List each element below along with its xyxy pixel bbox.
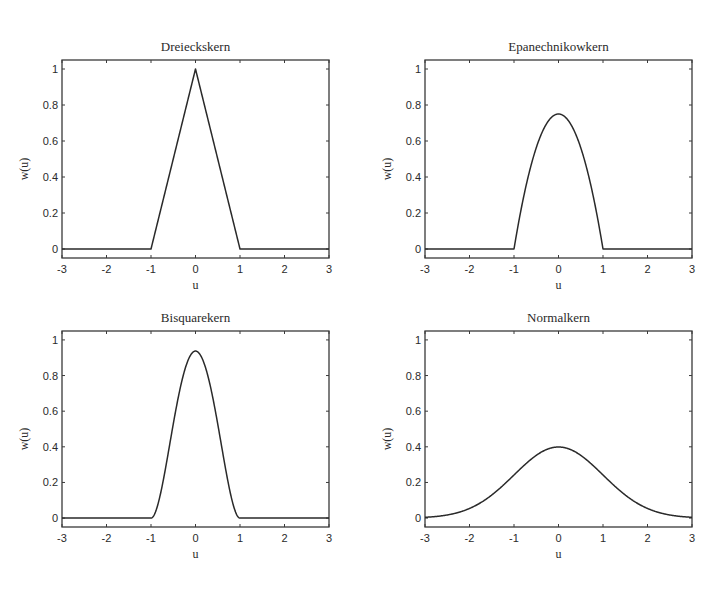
x-tick-label: -3 xyxy=(420,532,430,544)
y-tick-label: 0.6 xyxy=(43,135,58,147)
y-tick-label: 0.4 xyxy=(43,171,58,183)
y-tick-label: 0.4 xyxy=(406,441,421,453)
x-tick-label: -3 xyxy=(57,263,67,275)
y-tick-label: 0.6 xyxy=(406,405,421,417)
subplot-title: Normalkern xyxy=(527,310,590,325)
x-tick-label: 3 xyxy=(689,532,695,544)
axes-frame xyxy=(62,331,329,527)
x-tick-label: -3 xyxy=(420,263,430,275)
x-tick-label: -2 xyxy=(465,532,475,544)
subplot-normal-kernel: Normalkern-3-2-1012300.20.40.60.81uw(u) xyxy=(380,310,695,561)
subplot-epanechnikov-kernel: Epanechnikowkern-3-2-1012300.20.40.60.81… xyxy=(380,39,695,292)
x-tick-label: -2 xyxy=(465,263,475,275)
y-tick-label: 0.4 xyxy=(406,171,421,183)
y-axis-label: w(u) xyxy=(17,428,31,451)
x-axis-label: u xyxy=(556,278,562,292)
y-tick-label: 0.8 xyxy=(406,99,421,111)
y-tick-label: 0.2 xyxy=(406,476,421,488)
y-tick-label: 0.4 xyxy=(43,441,58,453)
y-tick-label: 0 xyxy=(52,243,58,255)
x-tick-label: 2 xyxy=(644,532,650,544)
y-tick-label: 0.6 xyxy=(406,135,421,147)
y-tick-label: 0.2 xyxy=(43,476,58,488)
x-tick-label: 1 xyxy=(600,263,606,275)
x-tick-label: 0 xyxy=(192,263,198,275)
x-tick-label: 0 xyxy=(555,532,561,544)
x-tick-label: -2 xyxy=(102,263,112,275)
y-tick-label: 0 xyxy=(52,512,58,524)
y-tick-label: 0.8 xyxy=(406,370,421,382)
y-tick-label: 0.8 xyxy=(43,370,58,382)
x-axis-label: u xyxy=(556,547,562,561)
y-tick-label: 0.8 xyxy=(43,99,58,111)
x-tick-label: 0 xyxy=(555,263,561,275)
y-tick-label: 0 xyxy=(415,243,421,255)
subplot-title: Epanechnikowkern xyxy=(508,39,609,54)
kernel-functions-figure: Dreieckskern-3-2-1012300.20.40.60.81uw(u… xyxy=(0,0,713,589)
subplot-bisquare-kernel: Bisquarekern-3-2-1012300.20.40.60.81uw(u… xyxy=(17,310,332,561)
subplot-title: Dreieckskern xyxy=(161,39,231,54)
x-tick-label: -1 xyxy=(146,263,156,275)
x-tick-label: 3 xyxy=(326,263,332,275)
y-tick-label: 1 xyxy=(415,334,421,346)
x-axis-label: u xyxy=(193,547,199,561)
y-tick-label: 0 xyxy=(415,512,421,524)
kernel-curve xyxy=(425,114,692,249)
x-tick-label: 2 xyxy=(644,263,650,275)
y-tick-label: 1 xyxy=(415,63,421,75)
x-tick-label: 1 xyxy=(237,532,243,544)
y-tick-label: 0.2 xyxy=(406,207,421,219)
x-tick-label: 3 xyxy=(326,532,332,544)
x-tick-label: 3 xyxy=(689,263,695,275)
y-tick-label: 0.6 xyxy=(43,405,58,417)
axes-frame xyxy=(425,331,692,527)
subplot-triangular-kernel: Dreieckskern-3-2-1012300.20.40.60.81uw(u… xyxy=(17,39,332,292)
x-tick-label: 2 xyxy=(281,263,287,275)
x-tick-label: 1 xyxy=(600,532,606,544)
y-tick-label: 1 xyxy=(52,334,58,346)
x-tick-label: -3 xyxy=(57,532,67,544)
x-tick-label: 1 xyxy=(237,263,243,275)
y-tick-label: 0.2 xyxy=(43,207,58,219)
kernel-curve xyxy=(425,447,692,517)
axes-frame xyxy=(62,60,329,258)
y-axis-label: w(u) xyxy=(380,428,394,451)
x-tick-label: -1 xyxy=(509,532,519,544)
y-axis-label: w(u) xyxy=(380,158,394,181)
y-tick-label: 1 xyxy=(52,63,58,75)
x-tick-label: -1 xyxy=(146,532,156,544)
axes-frame xyxy=(425,60,692,258)
x-tick-label: 0 xyxy=(192,532,198,544)
x-tick-label: 2 xyxy=(281,532,287,544)
kernel-curve xyxy=(62,351,329,518)
subplot-title: Bisquarekern xyxy=(161,310,231,325)
kernel-curve xyxy=(62,69,329,249)
x-tick-label: -2 xyxy=(102,532,112,544)
x-axis-label: u xyxy=(193,278,199,292)
x-tick-label: -1 xyxy=(509,263,519,275)
y-axis-label: w(u) xyxy=(17,158,31,181)
